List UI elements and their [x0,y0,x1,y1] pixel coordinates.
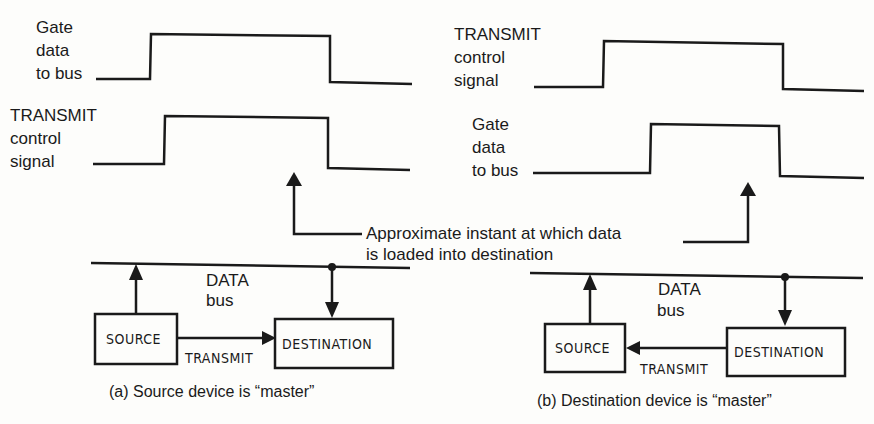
load-instant-arrow-a [294,185,362,234]
label: Gate [36,18,73,37]
caption-a: (a) Source device is “master” [109,383,314,400]
arrowhead-icon [129,264,143,280]
transmit-pulse-a [93,116,410,170]
panel-a: Gate data to bus TRANSMIT control signal… [10,18,412,400]
load-instant-arrow-b [683,195,748,242]
annotation-line-2: is loaded into destination [366,245,553,264]
data-bus-a [91,263,410,268]
label: TRANSMIT [10,106,97,125]
destination-label: DESTINATION [734,344,824,360]
transmit-label: TRANSMIT [184,350,253,366]
caption-b: (b) Destination device is “master” [537,392,772,409]
diagram-canvas: Gate data to bus TRANSMIT control signal… [0,0,874,424]
bus-label: bus [206,291,233,310]
label: control [454,48,505,67]
source-label: SOURCE [555,340,610,356]
destination-label: DESTINATION [282,336,372,352]
waveform-gate-data-a: Gate data to bus [36,18,412,84]
gate-data-pulse-a [96,34,412,84]
label: TRANSMIT [454,25,541,44]
waveform-transmit-b: TRANSMIT control signal [454,25,864,91]
transmit-pulse-b [534,41,864,91]
gate-data-pulse-b [533,124,864,178]
source-label: SOURCE [106,331,161,347]
label: to bus [36,64,82,83]
label: Gate [472,115,509,134]
transmit-label: TRANSMIT [639,361,708,377]
arrowhead-icon [325,302,339,318]
label: to bus [472,161,518,180]
label: data [472,138,506,157]
data-bus-b [530,273,863,278]
waveform-gate-data-b: Gate data to bus [472,115,864,180]
arrowhead-icon [626,341,640,355]
waveform-transmit-a: TRANSMIT control signal [10,106,410,171]
bus-label: bus [657,301,684,320]
label: data [36,41,70,60]
label: control [10,129,61,148]
arrowhead-icon [286,172,302,186]
label: signal [454,71,498,90]
arrowhead-icon [778,310,792,326]
panel-b: TRANSMIT control signal Gate data to bus… [454,25,864,409]
label: signal [10,152,54,171]
arrowhead-icon [740,182,756,196]
bus-label: DATA [658,280,701,299]
annotation-line-1: Approximate instant at which data [366,224,622,243]
bus-timing-diagram: Gate data to bus TRANSMIT control signal… [0,0,874,424]
arrowhead-icon [583,274,597,290]
bus-label: DATA [206,271,249,290]
